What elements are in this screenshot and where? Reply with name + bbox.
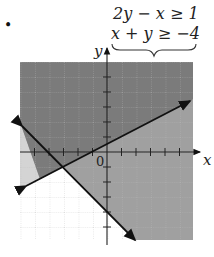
y-axis-label: y <box>93 42 103 60</box>
graph: x y 0 <box>0 0 214 257</box>
x-axis-label: x <box>203 151 212 169</box>
origin-label: 0 <box>96 154 104 169</box>
brace <box>112 44 196 56</box>
